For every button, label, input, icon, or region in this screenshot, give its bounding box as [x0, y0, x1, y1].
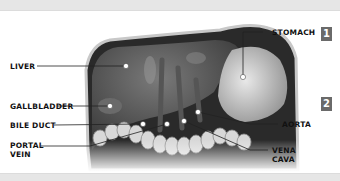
label-portal-vein: PORTAL VEIN — [10, 141, 44, 159]
liver-marker — [123, 63, 128, 68]
stomach-marker — [240, 74, 245, 79]
bile-duct-marker — [140, 121, 145, 126]
label-liver: LIVER — [10, 62, 35, 71]
stomach-shape — [218, 47, 287, 122]
label-vena-cava: VENA CAVA — [272, 146, 296, 164]
label-bile-duct: BILE DUCT — [10, 121, 56, 130]
step-badge-1: 1 — [321, 27, 332, 41]
step-badge-2: 2 — [321, 97, 332, 111]
bottom-band — [0, 173, 340, 181]
label-stomach: STOMACH — [272, 28, 315, 37]
gallbladder-marker — [107, 103, 112, 108]
label-aorta: AORTA — [282, 120, 311, 129]
aorta-marker — [195, 109, 200, 114]
vena-cava-marker — [181, 118, 186, 123]
portal-vein-marker — [164, 121, 169, 126]
label-gallbladder: GALLBLADDER — [10, 102, 73, 111]
